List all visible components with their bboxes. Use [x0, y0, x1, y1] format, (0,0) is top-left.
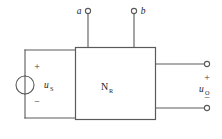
source-label-subscript: S	[50, 85, 54, 92]
source-plus-sign: +	[34, 61, 40, 72]
output-top-node-icon	[204, 61, 209, 66]
output-bottom-node-icon	[204, 105, 209, 110]
output-label-main: u	[199, 84, 204, 94]
terminal-b-node-icon	[131, 8, 136, 13]
terminal-a-node-icon	[85, 8, 90, 13]
output-label: u O	[199, 84, 210, 96]
voltage-source-symbol	[16, 76, 34, 94]
circuit-schematic-canvas: + − u S N R a b +	[0, 0, 222, 139]
terminal-a-group: a	[77, 6, 91, 48]
source-label-main: u	[44, 80, 49, 90]
source-loop-wires	[25, 50, 76, 118]
output-label-subscript: O	[205, 89, 210, 96]
terminal-a-label: a	[77, 6, 82, 16]
network-box	[76, 48, 156, 120]
source-minus-sign: −	[34, 96, 40, 107]
terminal-b-label: b	[141, 6, 146, 16]
terminal-b-group: b	[131, 6, 145, 48]
network-box-label-main: N	[101, 81, 108, 92]
source-label: u S	[44, 80, 54, 92]
output-plus-sign: +	[204, 72, 210, 83]
circuit-diagram-figure: + − u S N R a b +	[0, 0, 222, 139]
